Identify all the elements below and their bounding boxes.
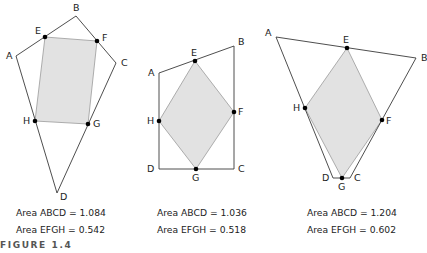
vertex-label-c: C: [121, 57, 128, 68]
vertex-label-h: H: [293, 102, 300, 113]
panel-1-area-abcd: Area ABCD = 1.084: [16, 207, 106, 218]
midpoint-e-dot: [43, 35, 48, 40]
vertex-label-f: F: [102, 32, 107, 43]
panel-3-area-abcd: Area ABCD = 1.204: [307, 207, 397, 218]
vertex-label-a: A: [148, 67, 155, 78]
vertex-label-e: E: [343, 34, 349, 45]
vertex-label-e: E: [35, 25, 41, 36]
panel-1: ABCDEFGH: [6, 2, 128, 202]
panel-3: ABCDEFGH: [265, 27, 427, 192]
quadrilateral-efgh: [159, 61, 234, 169]
midpoint-f-dot: [232, 110, 237, 115]
panel-1-area-efgh: Area EFGH = 0.542: [16, 224, 105, 235]
midpoint-f-dot: [380, 118, 385, 123]
vertex-label-g: G: [338, 181, 345, 192]
vertex-label-h: H: [147, 115, 154, 126]
vertex-label-b: B: [238, 36, 245, 47]
midpoint-g-dot: [86, 122, 91, 127]
panel-2-area-efgh: Area EFGH = 0.518: [157, 224, 246, 235]
vertex-label-c: C: [238, 163, 245, 174]
vertex-label-c: C: [354, 172, 361, 183]
quadrilateral-efgh: [305, 48, 382, 178]
vertex-label-g: G: [192, 172, 199, 183]
vertex-label-d: D: [322, 172, 329, 183]
midpoint-h-dot: [157, 119, 162, 124]
figure-label: FIGURE 1.4: [0, 240, 72, 250]
panel-3-area-efgh: Area EFGH = 0.602: [307, 224, 396, 235]
vertex-label-f: F: [386, 115, 391, 126]
midpoint-g-dot: [340, 176, 345, 181]
vertex-label-d: D: [147, 163, 154, 174]
midpoint-h-dot: [33, 119, 38, 124]
vertex-label-h: H: [23, 115, 30, 126]
vertex-label-f: F: [238, 106, 243, 117]
vertex-label-b: B: [421, 52, 427, 63]
vertex-label-g: G: [93, 118, 100, 129]
midpoint-g-dot: [194, 167, 199, 172]
midpoint-e-dot: [193, 59, 198, 64]
midpoint-f-dot: [95, 39, 100, 44]
vertex-label-a: A: [265, 27, 272, 38]
midpoint-h-dot: [303, 106, 308, 111]
quadrilateral-efgh: [35, 37, 97, 124]
vertex-label-d: D: [60, 191, 67, 202]
vertex-label-e: E: [191, 47, 197, 58]
vertex-label-a: A: [6, 50, 13, 61]
vertex-label-b: B: [73, 2, 80, 13]
panel-2: ABCDEFGH: [147, 36, 245, 183]
midpoint-e-dot: [345, 46, 350, 51]
panel-2-area-abcd: Area ABCD = 1.036: [157, 207, 247, 218]
